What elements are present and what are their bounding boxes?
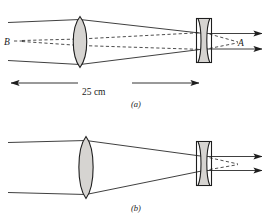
solid-ray-lower [8, 49, 262, 65]
figure-canvas: B A 25 cm (a) [0, 0, 270, 219]
converging-lens [73, 17, 87, 68]
panel-a: B A 25 cm (a) [4, 17, 262, 110]
panel-b-dashed-rays [204, 157, 238, 171]
diverging-lens [197, 142, 212, 186]
dashed-ray-upper [22, 33, 204, 41]
panel-a-solid-rays [8, 20, 262, 65]
dashed-ray-virtual-lower [204, 43, 238, 50]
object-point-label-b: B [4, 37, 10, 47]
panel-b-solid-rays [8, 141, 262, 195]
dashed-ray-virtual-upper [204, 157, 238, 165]
optics-figure: B A 25 cm (a) [0, 0, 270, 219]
solid-ray-upper [8, 20, 262, 34]
dashed-ray-virtual-lower [204, 165, 238, 171]
panel-b-caption: (b) [131, 203, 141, 213]
dashed-ray-lower [22, 42, 204, 50]
dimension-label: 25 cm [82, 87, 106, 97]
panel-a-caption: (a) [131, 99, 141, 109]
panel-b: (b) [8, 137, 262, 214]
image-point-label-a: A [237, 38, 244, 48]
dimension-25cm: 25 cm [11, 76, 199, 97]
diverging-lens [197, 19, 212, 63]
solid-ray-lower [8, 171, 262, 195]
solid-ray-upper [8, 141, 262, 157]
converging-lens [79, 137, 93, 199]
